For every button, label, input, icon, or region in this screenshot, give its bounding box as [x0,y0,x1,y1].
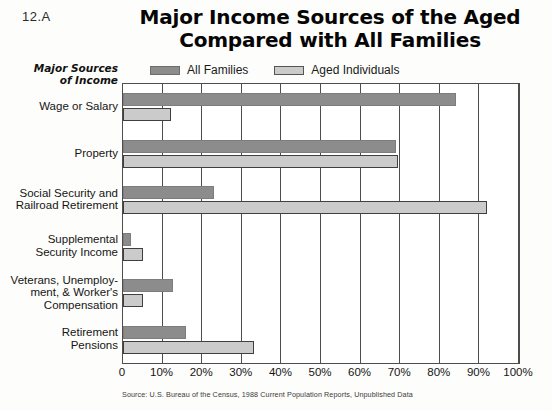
x-tick-label-20: 20% [190,366,213,378]
x-tick-label-40: 40% [269,366,292,378]
gridline-70 [399,84,400,363]
category-label-2-line-1: Railroad Retirement [6,199,118,212]
legend-label-aged_individuals: Aged Individuals [311,63,399,77]
category-label-5: RetirementPensions [6,326,118,351]
bar-aged-individuals-2 [123,201,487,214]
category-label-4-line-0: Veterans, Unemploy- [6,274,118,287]
x-tick-label-50: 50% [308,366,331,378]
category-labels: Wage or SalaryPropertySocial Security an… [4,83,118,362]
chart-legend: All FamiliesAged Individuals [150,63,399,77]
bar-all-families-5 [123,326,186,339]
category-label-4: Veterans, Unemploy-ment, & Worker'sCompe… [6,274,118,312]
plot-area [122,83,520,364]
chart-figure: 12.A Major Income Sources of the Aged Co… [0,0,552,411]
category-label-3-line-0: Supplemental [6,233,118,246]
source-note: Source: U.S. Bureau of the Census, 1988 … [122,390,522,399]
gridline-80 [439,84,440,363]
x-tick-label-30: 30% [229,366,252,378]
x-tick-label-0: 0 [119,366,125,378]
bar-all-families-2 [123,186,214,199]
bar-all-families-0 [123,93,456,106]
gridline-50 [320,84,321,363]
category-label-1-line-0: Property [6,147,118,160]
category-label-2-line-0: Social Security and [6,187,118,200]
legend-swatch-aged_individuals [274,66,304,75]
chart-title-line-1: Major Income Sources of the Aged [120,6,540,29]
legend-item-aged_individuals: Aged Individuals [274,63,399,77]
gridline-60 [360,84,361,363]
category-label-0: Wage or Salary [6,100,118,113]
x-tick-label-10: 10% [150,366,173,378]
legend-item-all_families: All Families [150,63,248,77]
chart-title: Major Income Sources of the Aged Compare… [120,6,540,52]
x-tick-label-80: 80% [427,366,450,378]
category-label-4-line-1: ment, & Worker's [6,286,118,299]
category-label-1: Property [6,147,118,160]
x-tick-label-70: 70% [388,366,411,378]
gridline-90 [478,84,479,363]
chart-title-line-2: Compared with All Families [120,29,540,52]
category-label-3-line-1: Security Income [6,246,118,259]
category-label-5-line-0: Retirement [6,326,118,339]
category-label-0-line-0: Wage or Salary [6,100,118,113]
bar-aged-individuals-5 [123,341,254,354]
bar-all-families-4 [123,279,173,292]
x-tick-label-60: 60% [348,366,371,378]
y-axis-title-line-1: Major Sources [18,62,118,74]
bar-all-families-3 [123,233,131,246]
gridline-20 [201,84,202,363]
legend-label-all_families: All Families [187,63,248,77]
gridline-40 [280,84,281,363]
legend-swatch-all_families [150,66,180,75]
x-axis-ticks: 010%20%30%40%50%60%70%80%90%100% [122,366,518,382]
category-label-3: SupplementalSecurity Income [6,233,118,258]
category-label-5-line-1: Pensions [6,339,118,352]
bar-aged-individuals-3 [123,248,143,261]
category-label-4-line-2: Compensation [6,299,118,312]
bar-all-families-1 [123,140,396,153]
gridline-10 [162,84,163,363]
gridline-100 [518,84,519,363]
gridline-30 [241,84,242,363]
bar-aged-individuals-4 [123,294,143,307]
page-label: 12.A [22,9,51,24]
bar-aged-individuals-0 [123,108,171,121]
bar-aged-individuals-1 [123,155,398,168]
category-label-2: Social Security andRailroad Retirement [6,187,118,212]
x-tick-label-100: 100% [503,366,532,378]
x-tick-label-90: 90% [467,366,490,378]
